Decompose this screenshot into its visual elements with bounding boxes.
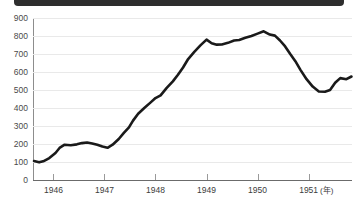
series-polyline <box>34 31 351 162</box>
chart-container: 9008007006005004003002001000 19461947194… <box>0 0 358 209</box>
line-series <box>0 0 358 209</box>
